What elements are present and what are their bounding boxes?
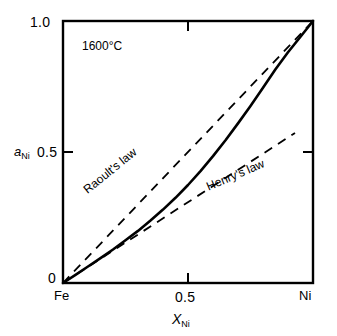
y-tick-label-0: 0 <box>48 271 56 285</box>
activity-diagram-figure: 1.0 0.5 0 0.5 Fe Ni aNi XNi 1600°C Raoul… <box>0 0 337 336</box>
x-axis-title-base: X <box>172 311 181 327</box>
temperature-annotation: 1600°C <box>82 40 122 52</box>
x-axis-title-subscript: Ni <box>181 319 190 329</box>
y-tick-label-1: 1.0 <box>30 15 50 29</box>
x-axis-endpoint-ni: Ni <box>299 289 311 302</box>
x-tick-label-0point5: 0.5 <box>175 290 195 304</box>
raoults-law-line <box>63 21 313 283</box>
x-axis-endpoint-fe: Fe <box>54 289 69 302</box>
y-tick-label-0point5: 0.5 <box>37 145 57 159</box>
y-axis-title-subscript: Ni <box>21 151 30 161</box>
y-axis-title: aNi <box>14 145 30 158</box>
x-axis-title: XNi <box>172 312 190 326</box>
